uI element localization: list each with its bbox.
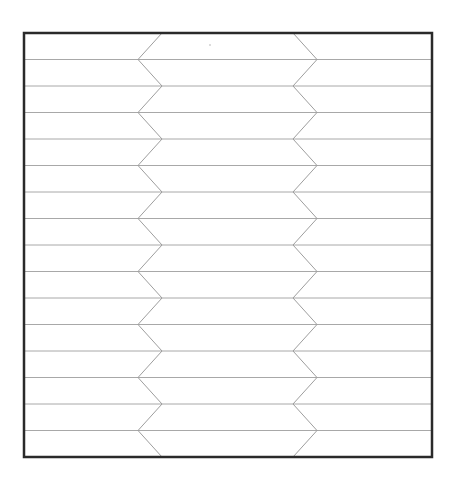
horizontal-lines xyxy=(24,60,432,431)
zigzag-diagram xyxy=(0,0,455,483)
speck-artifact xyxy=(209,44,211,46)
